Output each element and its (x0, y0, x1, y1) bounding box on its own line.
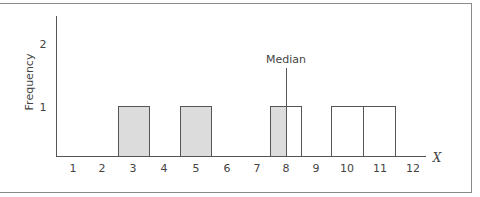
x-tick-8: 8 (283, 162, 290, 175)
x-tick-2: 2 (99, 162, 106, 175)
x-tick-11: 11 (373, 162, 387, 175)
bar-10 (332, 107, 364, 157)
x-tick-4: 4 (161, 162, 168, 175)
x-tick-12: 12 (406, 162, 420, 175)
x-tick-3: 3 (130, 162, 137, 175)
y-tick-2: 2 (40, 38, 47, 51)
y-tick-1: 1 (40, 101, 47, 114)
x-tick-1: 1 (70, 162, 77, 175)
x-tick-6: 6 (224, 162, 231, 175)
bar-3 (119, 107, 150, 157)
x-tick-10: 10 (340, 162, 354, 175)
histogram-chart: 2 1 Frequency Median 1 2 3 4 5 6 7 8 9 1… (0, 0, 480, 197)
bar-5 (181, 107, 212, 157)
x-tick-7: 7 (254, 162, 261, 175)
median-label: Median (266, 53, 306, 66)
y-axis-label: Frequency (23, 53, 36, 110)
x-axis-label: X (432, 151, 442, 165)
x-tick-5: 5 (193, 162, 200, 175)
x-tick-9: 9 (313, 162, 320, 175)
bar-11 (364, 107, 396, 157)
